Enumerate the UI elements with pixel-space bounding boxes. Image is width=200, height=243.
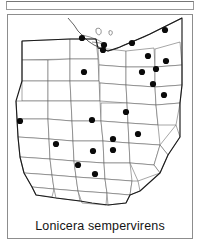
occurrence-dot	[153, 66, 159, 72]
occurrence-dot	[90, 148, 96, 154]
occurrence-dot	[53, 141, 59, 147]
distribution-map-figure: Lonicera sempervirens	[7, 14, 193, 239]
occurrence-dot	[139, 69, 145, 75]
occurrence-dot	[110, 147, 116, 153]
occurrence-dot	[145, 53, 151, 59]
occurrence-dot	[17, 118, 23, 124]
occurrence-dot	[162, 27, 168, 33]
occurrence-dot	[81, 69, 87, 75]
ohio-county-map-svg	[8, 15, 192, 211]
occurrence-dot	[163, 58, 169, 64]
occurrence-dot	[129, 40, 135, 46]
figure-caption: Lonicera sempervirens	[8, 213, 192, 239]
figure-page: Lonicera sempervirens	[0, 0, 200, 243]
occurrence-dot	[110, 136, 116, 142]
occurrence-dot	[89, 117, 95, 123]
occurrence-dot	[135, 131, 141, 137]
occurrence-dot	[161, 92, 167, 98]
occurrence-dot	[79, 35, 85, 41]
occurrence-dot	[75, 162, 81, 168]
occurrence-dot	[92, 171, 98, 177]
map-area	[8, 15, 192, 211]
top-cropped-panel	[6, 1, 194, 10]
species-name-label: Lonicera sempervirens	[35, 219, 165, 233]
occurrence-dot	[101, 42, 107, 48]
occurrence-dot	[123, 109, 129, 115]
occurrence-dot	[150, 81, 156, 87]
county-boundaries	[16, 39, 182, 205]
